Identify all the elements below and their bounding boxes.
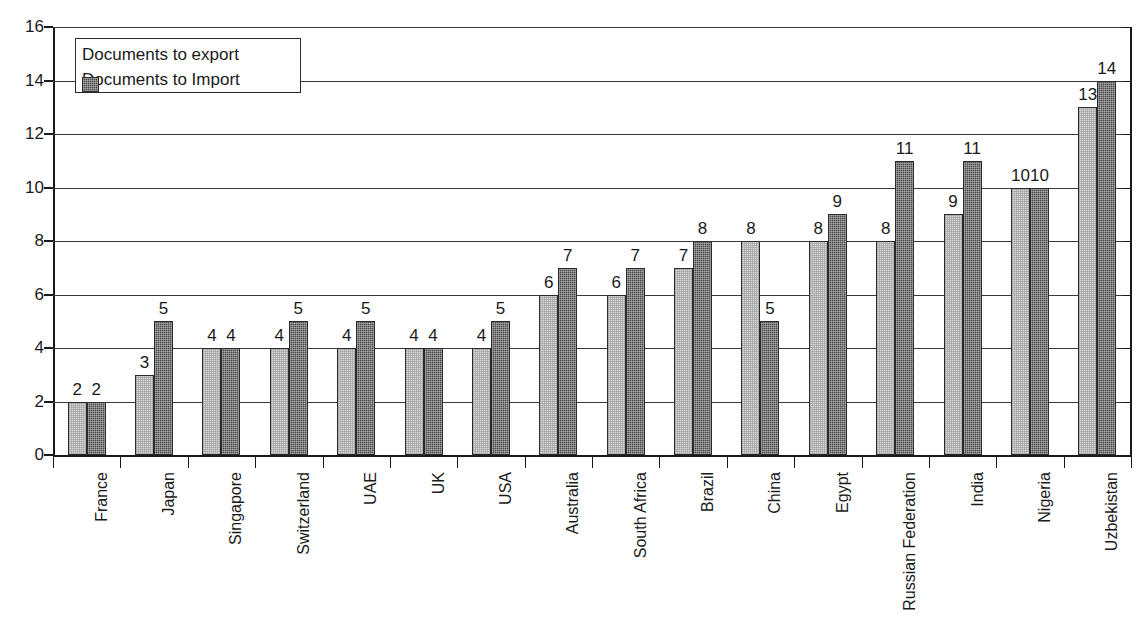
- bar-value-label: 5: [351, 300, 381, 317]
- y-axis-tick: [44, 454, 53, 456]
- bar-import: [356, 321, 375, 455]
- category-label: Nigeria: [1037, 472, 1053, 523]
- y-axis-tick: [44, 133, 53, 135]
- bar-import: [491, 321, 510, 455]
- x-axis-tick: [53, 457, 54, 468]
- bar-import: [1097, 81, 1116, 456]
- bar-export: [472, 348, 491, 455]
- bar-value-label: 5: [755, 300, 785, 317]
- x-axis-tick: [188, 457, 189, 468]
- x-axis-tick: [255, 457, 256, 468]
- x-axis-tick: [592, 457, 593, 468]
- y-axis-tick-label: 0: [14, 446, 44, 463]
- x-axis-tick: [457, 457, 458, 468]
- y-axis-tick-right: [1122, 81, 1131, 82]
- y-axis-tick-right: [1122, 188, 1131, 189]
- bar-export: [1078, 107, 1097, 455]
- y-axis-tick: [44, 294, 53, 296]
- category-label: China: [767, 472, 783, 514]
- x-axis-tick: [525, 457, 526, 468]
- legend-swatch-import-icon: [82, 77, 99, 92]
- bar-export: [202, 348, 221, 455]
- category-label: UAE: [363, 472, 379, 505]
- y-axis-tick-label: 8: [14, 232, 44, 249]
- x-axis-tick: [1131, 457, 1132, 468]
- bar-export: [876, 241, 895, 455]
- bar-chart: 0246810121416 22354445454445676778858981…: [0, 0, 1142, 644]
- y-axis-tick-label: 16: [14, 18, 44, 35]
- x-axis-tick: [120, 457, 121, 468]
- y-axis-tick-label: 12: [14, 125, 44, 142]
- bar-import: [424, 348, 443, 455]
- x-axis-tick: [862, 457, 863, 468]
- y-axis-tick-right: [1122, 348, 1131, 349]
- category-label: France: [94, 472, 110, 522]
- bar-export: [68, 402, 87, 456]
- bar-export: [135, 375, 154, 455]
- category-label: Singapore: [228, 472, 244, 545]
- bar-value-label: 14: [1092, 60, 1122, 77]
- category-label: USA: [498, 472, 514, 505]
- bar-value-label: 2: [81, 381, 111, 398]
- right-axis-line: [1130, 27, 1132, 457]
- y-axis-tick-right: [1122, 402, 1131, 403]
- bar-export: [337, 348, 356, 455]
- x-axis-tick: [727, 457, 728, 468]
- x-axis-tick: [659, 457, 660, 468]
- bar-export: [674, 268, 693, 455]
- y-axis-tick: [44, 347, 53, 349]
- y-axis-tick: [44, 401, 53, 403]
- y-axis-tick-right: [1122, 134, 1131, 135]
- category-label: UK: [431, 472, 447, 494]
- bar-import: [828, 214, 847, 455]
- legend-item-import: Documents to Import: [82, 67, 294, 92]
- bar-export: [809, 241, 828, 455]
- bar-value-label: 4: [418, 327, 448, 344]
- category-label: South Africa: [633, 472, 649, 558]
- category-label: Australia: [565, 472, 581, 534]
- y-axis-tick: [44, 80, 53, 82]
- y-axis-tick-right: [1122, 27, 1131, 28]
- bar-value-label: 5: [283, 300, 313, 317]
- bar-value-label: 11: [957, 140, 987, 157]
- legend-label-export: Documents to export: [82, 46, 239, 63]
- gridline: [53, 27, 1131, 28]
- bar-import: [154, 321, 173, 455]
- bar-import: [760, 321, 779, 455]
- category-label: India: [970, 472, 986, 507]
- legend-item-export: Documents to export: [82, 42, 294, 67]
- y-axis-tick: [44, 26, 53, 28]
- bar-import: [289, 321, 308, 455]
- bar-value-label: 4: [216, 327, 246, 344]
- y-axis-tick-label: 10: [14, 179, 44, 196]
- x-axis-tick: [1064, 457, 1065, 468]
- bar-export: [607, 295, 626, 456]
- bar-value-label: 5: [485, 300, 515, 317]
- category-label: Egypt: [835, 472, 851, 513]
- category-label: Switzerland: [296, 472, 312, 555]
- y-axis-tick-label: 4: [14, 339, 44, 356]
- bar-value-label: 5: [149, 300, 179, 317]
- legend-label-import: Documents to Import: [82, 71, 240, 88]
- gridline: [53, 134, 1131, 135]
- y-axis-tick-right: [1122, 455, 1131, 456]
- y-axis-tick: [44, 240, 53, 242]
- bar-export: [741, 241, 760, 455]
- bar-import: [963, 161, 982, 455]
- bar-value-label: 8: [736, 220, 766, 237]
- x-axis-tick: [996, 457, 997, 468]
- category-label: Uzbekistan: [1104, 472, 1120, 551]
- y-axis-tick-label: 6: [14, 286, 44, 303]
- bar-export: [405, 348, 424, 455]
- y-axis-tick-right: [1122, 241, 1131, 242]
- category-label: Japan: [161, 472, 177, 516]
- bar-export: [1011, 188, 1030, 456]
- y-axis-tick-label: 2: [14, 393, 44, 410]
- bar-import: [558, 268, 577, 455]
- x-axis-tick: [323, 457, 324, 468]
- category-label: Russian Federation: [902, 472, 918, 611]
- bar-import: [1030, 188, 1049, 456]
- y-axis-tick-right: [1122, 295, 1131, 296]
- bar-value-label: 7: [553, 247, 583, 264]
- y-axis-line: [53, 27, 55, 457]
